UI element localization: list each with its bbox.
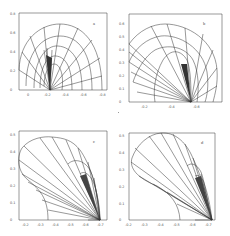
svg-text:-0.4: -0.4 — [62, 93, 69, 97]
svg-text:0.4: 0.4 — [119, 48, 124, 52]
svg-text:-0.2: -0.2 — [141, 105, 148, 109]
svg-text:-0.2: -0.2 — [22, 223, 29, 227]
svg-text:0.1: 0.1 — [119, 87, 124, 91]
svg-text:0.4: 0.4 — [119, 151, 124, 155]
svg-text:-0.6: -0.6 — [193, 105, 200, 109]
svg-text:0: 0 — [10, 218, 12, 222]
svg-text:-0.6: -0.6 — [80, 93, 87, 97]
svg-text:0.6: 0.6 — [119, 22, 124, 26]
svg-text:-0.7: -0.7 — [97, 223, 104, 227]
svg-text:0: 0 — [27, 93, 29, 97]
mesh-plot-c: c -0.2 -0.3 -0.4 -0.5 -0.6 -0.7 0 0.1 0.… — [0, 118, 115, 236]
panel-d: d -0.2 -0.3 -0.4 -0.5 -0.6 -0.7 0 0.1 0.… — [115, 118, 230, 236]
svg-text:-0.5: -0.5 — [173, 223, 180, 227]
svg-text:0.4: 0.4 — [10, 50, 15, 54]
svg-text:0.3: 0.3 — [10, 167, 15, 171]
svg-text:0.1: 0.1 — [119, 202, 124, 206]
x-ticks-a: 0 -0.2 -0.4 -0.6 -0.8 — [27, 93, 106, 97]
svg-text:-0.8: -0.8 — [99, 93, 106, 97]
mesh-plot-a: a 0 -0.2 -0.4 -0.6 -0.8 0 0.2 0.4 0.6 0.… — [0, 0, 115, 118]
y-ticks-d: 0 0.1 0.2 0.3 0.4 0.5 — [119, 134, 124, 222]
svg-text:-0.5: -0.5 — [67, 223, 74, 227]
svg-text:0.1: 0.1 — [10, 201, 15, 205]
svg-text:0: 0 — [10, 88, 12, 92]
svg-text:-0.3: -0.3 — [37, 223, 44, 227]
svg-text:0: 0 — [119, 218, 121, 222]
panel-b: b -0.2 -0.4 -0.6 0 0.1 0.2 0.3 0.4 0.5 0… — [115, 0, 230, 118]
svg-text:0.5: 0.5 — [119, 134, 124, 138]
svg-text:0.6: 0.6 — [10, 31, 15, 35]
panel-label-d: d — [201, 140, 204, 145]
svg-text:-0.7: -0.7 — [205, 223, 212, 227]
panel-label-c: c — [93, 139, 95, 144]
svg-text:0.2: 0.2 — [10, 184, 15, 188]
svg-text:-0.2: -0.2 — [125, 223, 132, 227]
panel-c: c -0.2 -0.3 -0.4 -0.5 -0.6 -0.7 0 0.1 0.… — [0, 118, 115, 236]
panel-label-a: a — [93, 21, 95, 26]
svg-text:0.4: 0.4 — [10, 150, 15, 154]
svg-text:0.3: 0.3 — [119, 61, 124, 65]
svg-text:-0.4: -0.4 — [52, 223, 59, 227]
x-ticks-c: -0.2 -0.3 -0.4 -0.5 -0.6 -0.7 — [22, 223, 104, 227]
panel-a: a 0 -0.2 -0.4 -0.6 -0.8 0 0.2 0.4 0.6 0.… — [0, 0, 115, 118]
svg-text:0: 0 — [119, 100, 121, 104]
svg-text:-0.6: -0.6 — [189, 223, 196, 227]
panel-label-b: b — [203, 21, 206, 26]
y-ticks-a: 0 0.2 0.4 0.6 0.8 — [10, 12, 15, 92]
svg-text:0.2: 0.2 — [10, 69, 15, 73]
x-ticks-d: -0.2 -0.3 -0.4 -0.5 -0.6 -0.7 — [125, 223, 212, 227]
svg-text:0.8: 0.8 — [10, 12, 15, 16]
x-ticks-b: -0.2 -0.4 -0.6 — [141, 105, 200, 109]
svg-text:0.3: 0.3 — [119, 168, 124, 172]
svg-text:-0.6: -0.6 — [82, 223, 89, 227]
svg-text:0.5: 0.5 — [119, 35, 124, 39]
mesh-plot-b: b -0.2 -0.4 -0.6 0 0.1 0.2 0.3 0.4 0.5 0… — [115, 0, 230, 118]
svg-text:0.5: 0.5 — [10, 133, 15, 137]
stray-dot — [118, 112, 119, 113]
y-ticks-c: 0 0.1 0.2 0.3 0.4 0.5 — [10, 133, 15, 222]
mesh-plot-d: d -0.2 -0.3 -0.4 -0.5 -0.6 -0.7 0 0.1 0.… — [115, 118, 230, 236]
svg-text:-0.3: -0.3 — [141, 223, 148, 227]
svg-text:0.2: 0.2 — [119, 185, 124, 189]
svg-text:0.2: 0.2 — [119, 74, 124, 78]
y-ticks-b: 0 0.1 0.2 0.3 0.4 0.5 0.6 — [119, 22, 124, 104]
svg-text:-0.4: -0.4 — [157, 223, 164, 227]
svg-text:-0.2: -0.2 — [44, 93, 51, 97]
svg-text:-0.4: -0.4 — [168, 105, 175, 109]
